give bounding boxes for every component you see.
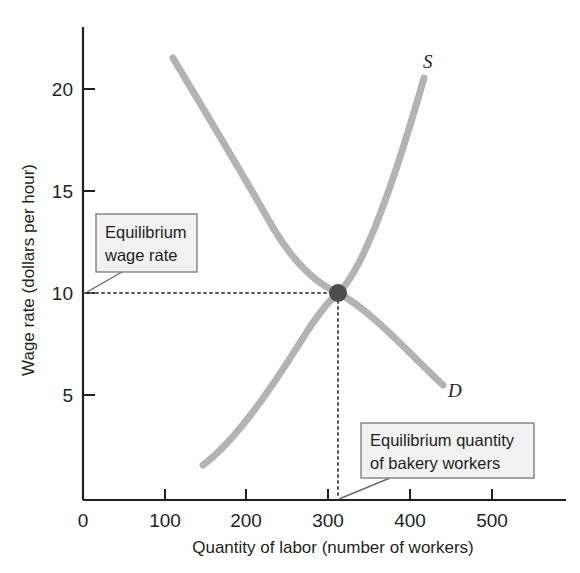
y-axis-ticks [83,89,95,395]
annotation-equilibrium-wage: Equilibrium wage rate [87,214,197,292]
equilibrium-point-marker [329,284,347,302]
x-axis-tick-labels: 0 100 200 300 400 500 [78,510,508,531]
x-tick-label-500: 500 [476,510,508,531]
y-axis-tick-labels: 20 15 10 5 [52,79,73,406]
equilibrium-wage-leader-line [87,272,122,292]
x-tick-label-300: 300 [312,510,344,531]
y-tick-label-20: 20 [52,79,73,100]
x-axis-ticks [165,489,492,500]
equilibrium-wage-line2: wage rate [104,246,177,264]
supply-curve [203,78,424,465]
y-tick-label-10: 10 [52,283,73,304]
labor-market-chart: 20 15 10 5 0 100 200 300 400 500 Quantit… [0,0,580,573]
x-tick-label-200: 200 [230,510,262,531]
x-axis-title: Quantity of labor (number of workers) [192,538,474,557]
equilibrium-quantity-line2: of bakery workers [370,454,500,472]
y-tick-label-5: 5 [62,385,73,406]
economics-labor-market-figure: 20 15 10 5 0 100 200 300 400 500 Quantit… [0,0,580,573]
x-tick-label-0: 0 [78,510,89,531]
equilibrium-quantity-leader-line [339,478,390,499]
x-tick-label-400: 400 [394,510,426,531]
y-tick-label-15: 15 [52,181,73,202]
y-axis-title: Wage rate (dollars per hour) [19,164,38,376]
demand-curve-label: D [447,380,462,401]
equilibrium-wage-line1: Equilibrium [105,223,187,241]
equilibrium-quantity-line1: Equilibrium quantity [370,431,515,449]
annotation-equilibrium-quantity: Equilibrium quantity of bakery workers [339,423,534,499]
supply-curve-label: S [423,51,433,72]
x-tick-label-100: 100 [149,510,181,531]
